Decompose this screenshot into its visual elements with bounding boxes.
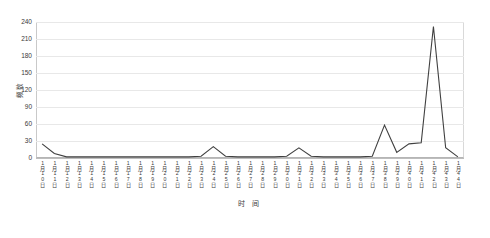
x-axis-tick-label: 1月43日 bbox=[443, 160, 448, 187]
x-axis-tick-label: 1月33日 bbox=[321, 160, 326, 187]
x-axis-tick-label: 1月19日 bbox=[150, 160, 155, 187]
y-axis-tick-label: 60 bbox=[25, 121, 32, 128]
x-axis-tick-label: 1月42日 bbox=[431, 160, 436, 187]
series-polyline bbox=[42, 27, 458, 157]
x-axis-tick-label: 1月27日 bbox=[247, 160, 252, 187]
y-axis-title: 频数 bbox=[14, 82, 24, 98]
chart-plot-area: 0306090120150180210240 频数 1月10日1月11日1月12… bbox=[36, 22, 464, 158]
x-axis-tick-label: 1月17日 bbox=[125, 160, 130, 187]
x-axis-tick-label: 1月14日 bbox=[88, 160, 93, 187]
y-axis-tick-label: 150 bbox=[21, 70, 32, 77]
y-axis-tick-label: 240 bbox=[21, 19, 32, 26]
series-line bbox=[36, 22, 464, 158]
x-axis-tick-label: 1月28日 bbox=[260, 160, 265, 187]
x-axis-tick-label: 1月31日 bbox=[296, 160, 301, 187]
x-axis-tick-label: 1月22日 bbox=[186, 160, 191, 187]
x-axis-tick-label: 1月29日 bbox=[272, 160, 277, 187]
x-axis-tick-label: 1月10日 bbox=[40, 160, 45, 187]
y-axis-tick-label: 30 bbox=[25, 138, 32, 145]
x-axis-tick-label: 1月24日 bbox=[211, 160, 216, 187]
x-axis-tick-label: 1月23日 bbox=[198, 160, 203, 187]
x-axis-tick-label: 1月37日 bbox=[370, 160, 375, 187]
x-axis-ticks: 1月10日1月11日1月12日1月13日1月14日1月15日1月16日1月17日… bbox=[36, 158, 464, 196]
x-axis-tick-label: 1月35日 bbox=[345, 160, 350, 187]
x-axis-tick-label: 1月13日 bbox=[76, 160, 81, 187]
y-axis-tick-label: 90 bbox=[25, 104, 32, 111]
x-axis-tick-label: 1月15日 bbox=[101, 160, 106, 187]
y-axis-tick-label: 210 bbox=[21, 36, 32, 43]
x-axis-tick-label: 1月26日 bbox=[235, 160, 240, 187]
x-axis-tick-label: 1月40日 bbox=[406, 160, 411, 187]
x-axis-tick-label: 1月34日 bbox=[333, 160, 338, 187]
x-axis-tick-label: 1月18日 bbox=[137, 160, 142, 187]
x-axis-title: 时 间 bbox=[36, 198, 464, 208]
x-axis-tick-label: 1月12日 bbox=[64, 160, 69, 187]
x-axis-tick-label: 1月25日 bbox=[223, 160, 228, 187]
x-axis-tick-label: 1月11日 bbox=[52, 160, 57, 187]
x-axis-tick-label: 1月41日 bbox=[419, 160, 424, 187]
x-axis-tick-label: 1月21日 bbox=[174, 160, 179, 187]
x-axis-tick-label: 1月44日 bbox=[455, 160, 460, 187]
x-axis-tick-label: 1月32日 bbox=[309, 160, 314, 187]
figure-caption bbox=[0, 228, 490, 238]
x-axis-tick-label: 1月30日 bbox=[284, 160, 289, 187]
x-axis-tick-label: 1月38日 bbox=[382, 160, 387, 187]
x-axis-tick-label: 1月20日 bbox=[162, 160, 167, 187]
x-axis-tick-label: 1月16日 bbox=[113, 160, 118, 187]
chart-screenshot: 0306090120150180210240 频数 1月10日1月11日1月12… bbox=[0, 0, 490, 238]
y-axis-tick-label: 0 bbox=[28, 155, 32, 162]
x-axis-tick-label: 1月39日 bbox=[394, 160, 399, 187]
x-axis-tick-label: 1月36日 bbox=[357, 160, 362, 187]
y-axis-tick-label: 180 bbox=[21, 53, 32, 60]
